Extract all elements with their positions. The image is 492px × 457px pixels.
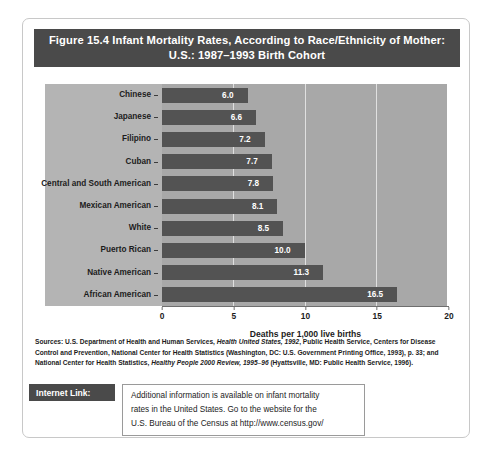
bar-row: 6.0 (162, 88, 447, 103)
x-tick-mark (233, 307, 234, 310)
sources-note: Sources: U.S. Department of Health and H… (35, 337, 459, 369)
category-label: Native American (87, 268, 160, 278)
category-label: White (129, 223, 160, 233)
category-label: Japanese (114, 112, 160, 122)
category-label: Filipino (122, 134, 160, 144)
x-tick: 10 (301, 307, 310, 321)
bar-chart: Chinese Japanese Filipino Cuban Central … (34, 79, 460, 349)
bar-value-label: 11.3 (294, 268, 323, 277)
sources-italic-2: Healthy People 2000 Review, 1995–96 (151, 359, 268, 366)
internet-link-block: Internet Link: Additional information is… (29, 384, 365, 434)
bar-row: 11.3 (162, 265, 447, 280)
x-tick-mark (448, 307, 449, 310)
bar-value-label: 7.8 (248, 179, 273, 188)
internet-link-label: Internet Link: (29, 384, 115, 401)
category-label: Central and South American (41, 179, 160, 189)
sources-italic-1: Health United States, 1992 (217, 338, 299, 345)
x-axis-ticks: 0 5 10 15 20 (162, 307, 449, 321)
bar-value-label: 16.5 (367, 290, 397, 299)
x-tick: 15 (373, 307, 382, 321)
x-tick: 20 (444, 307, 453, 321)
bar: 7.2 (162, 132, 265, 147)
bar-value-label: 7.7 (246, 157, 271, 166)
figure-title-line2: U.S.: 1987–1993 Birth Cohort (49, 48, 445, 63)
x-tick-label: 20 (444, 311, 453, 321)
x-tick-label: 0 (160, 311, 165, 321)
sources-segment-1: Sources: U.S. Department of Health and H… (35, 338, 217, 345)
figure-title-bar: Figure 15.4 Infant Mortality Rates, Acco… (34, 29, 460, 67)
bar: 16.5 (162, 287, 397, 302)
bar-row: 7.2 (162, 132, 447, 147)
bar: 8.5 (162, 221, 283, 236)
category-label: Puerto Rican (100, 245, 160, 255)
bar-row: 10.0 (162, 243, 447, 258)
bar: 6.0 (162, 88, 248, 103)
bar: 8.1 (162, 199, 277, 214)
bar: 7.8 (162, 176, 273, 191)
figure-title: Figure 15.4 Infant Mortality Rates, Acco… (41, 33, 453, 63)
bar-row: 8.5 (162, 221, 447, 236)
figure-page: Figure 15.4 Infant Mortality Rates, Acco… (0, 0, 492, 457)
category-label: Cuban (126, 157, 160, 167)
bar-value-label: 8.1 (252, 202, 277, 211)
x-tick-mark (305, 307, 306, 310)
internet-link-line[interactable]: U.S. Bureau of the Census at http://www.… (131, 417, 356, 431)
bars-container: 6.0 6.6 7.2 7. (162, 84, 447, 306)
x-tick: 0 (160, 307, 165, 321)
x-tick-label: 15 (373, 311, 382, 321)
category-label: African American (84, 290, 161, 300)
bar: 11.3 (162, 265, 323, 280)
bar-value-label: 6.6 (231, 113, 256, 122)
x-tick-mark (377, 307, 378, 310)
bar-value-label: 8.5 (258, 224, 283, 233)
bar-row: 16.5 (162, 287, 447, 302)
x-tick-mark (161, 307, 162, 310)
sources-segment-3: (Hyattsville, MD: Public Health Service,… (269, 359, 413, 366)
bar-value-label: 10.0 (275, 246, 305, 255)
bar-row: 6.6 (162, 110, 447, 125)
figure-card: Figure 15.4 Infant Mortality Rates, Acco… (22, 18, 470, 438)
x-tick-label: 10 (301, 311, 310, 321)
category-axis-labels: Chinese Japanese Filipino Cuban Central … (45, 84, 160, 306)
category-label: Mexican American (79, 201, 160, 211)
bar-row: 8.1 (162, 199, 447, 214)
bar: 10.0 (162, 243, 305, 258)
bar: 7.7 (162, 154, 272, 169)
x-tick: 5 (231, 307, 236, 321)
plot-area: 6.0 6.6 7.2 7. (162, 84, 449, 306)
bar-row: 7.8 (162, 176, 447, 191)
bar-value-label: 7.2 (239, 135, 264, 144)
bar-value-label: 6.0 (222, 91, 247, 100)
internet-link-line: rates in the United States. Go to the we… (131, 403, 356, 417)
figure-title-line1: Figure 15.4 Infant Mortality Rates, Acco… (49, 34, 445, 46)
bar: 6.6 (162, 110, 256, 125)
internet-link-line: Additional information is available on i… (131, 389, 356, 403)
category-label: Chinese (119, 90, 160, 100)
bar-row: 7.7 (162, 154, 447, 169)
x-tick-label: 5 (231, 311, 236, 321)
internet-link-text-box: Additional information is available on i… (122, 384, 365, 436)
